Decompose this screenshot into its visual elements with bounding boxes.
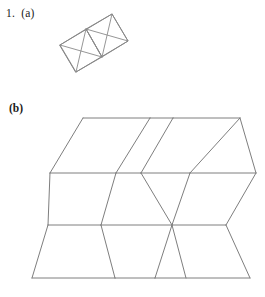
edge-slant-b5 bbox=[226, 225, 250, 278]
edge-slant-b4 bbox=[172, 225, 186, 278]
edge-slant-m3 bbox=[141, 173, 172, 225]
edge-slant-b2 bbox=[101, 225, 115, 278]
edge-slant-m1 bbox=[48, 173, 50, 225]
edge-slant-t5 bbox=[190, 118, 240, 173]
figure-b-drawing bbox=[0, 0, 265, 297]
hexagon-tiling bbox=[32, 118, 256, 278]
edge-slant-m5 bbox=[226, 173, 256, 225]
edge-slant-t1 bbox=[50, 118, 83, 173]
edge-slant-b3 bbox=[155, 225, 172, 278]
edge-slant-t3 bbox=[141, 118, 173, 173]
edge-slant-m2 bbox=[101, 173, 116, 225]
edge-slant-m4 bbox=[172, 173, 190, 225]
edge-slant-t2 bbox=[116, 118, 150, 173]
figure-page: 1. (a) (b) bbox=[0, 0, 265, 297]
edge-slant-t4 bbox=[240, 118, 256, 173]
edge-slant-b1 bbox=[32, 225, 48, 278]
